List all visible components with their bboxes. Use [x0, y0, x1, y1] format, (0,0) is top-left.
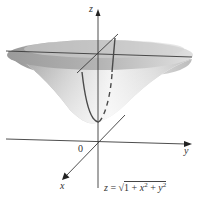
- z-axis-label: z: [89, 3, 93, 14]
- eq-y-exp: 2: [163, 181, 167, 189]
- z-arrowhead: [96, 9, 101, 16]
- x-axis-label: x: [60, 180, 64, 191]
- y-axis: [6, 139, 186, 144]
- eq-radicand: 1 + x2 + y2: [124, 181, 166, 193]
- surface-equation: z = √1 + x2 + y2: [104, 181, 166, 193]
- eq-radicand-prefix: 1 +: [124, 182, 140, 193]
- hyperboloid-figure: [0, 0, 200, 201]
- y-axis-label: y: [184, 145, 188, 156]
- x-axis: [66, 115, 125, 176]
- eq-equals: =: [108, 182, 119, 193]
- origin-label: 0: [78, 143, 83, 154]
- eq-plus: +: [148, 182, 159, 193]
